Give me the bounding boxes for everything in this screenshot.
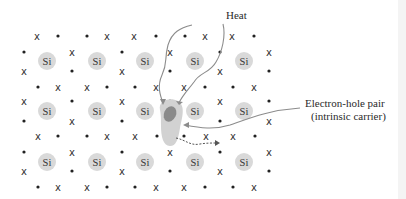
- electron-x-icon: x: [153, 182, 159, 193]
- electron-dot-icon: [85, 134, 88, 137]
- electron-x-icon: x: [266, 47, 272, 58]
- electron-x-icon: x: [181, 82, 187, 93]
- electron-x-icon: x: [202, 31, 208, 42]
- electron-x-icon: x: [251, 182, 257, 193]
- electron-dot-icon: [133, 85, 136, 88]
- si-atom-label: Si: [141, 56, 150, 67]
- si-atom-label: Si: [43, 157, 52, 168]
- electron-dot-icon: [105, 85, 108, 88]
- electron-x-icon: x: [69, 47, 75, 58]
- electron-dot-icon: [203, 185, 206, 188]
- si-atom-label: Si: [240, 157, 249, 168]
- electron-x-icon: x: [230, 131, 236, 142]
- electron-x-icon: x: [167, 47, 173, 58]
- electron-dot-icon: [183, 34, 186, 37]
- electron-x-icon: x: [119, 166, 125, 177]
- electron-dot-icon: [252, 34, 255, 37]
- electron-x-icon: x: [119, 66, 125, 77]
- si-atom-label: Si: [93, 56, 102, 67]
- electron-dot-icon: [120, 150, 123, 153]
- si-atom-label: Si: [240, 56, 249, 67]
- electron-dot-icon: [22, 150, 25, 153]
- electron-dot-icon: [253, 134, 256, 137]
- electron-x-icon: x: [229, 31, 235, 42]
- electron-dot-icon: [155, 134, 158, 137]
- electron-x-icon: x: [55, 82, 61, 93]
- lattice-diagram: SiSiSiSiSiSiSiSiSiSiSiSiSiSiSi xxxxxxxxx…: [0, 0, 406, 199]
- electron-x-icon: x: [217, 66, 223, 77]
- electron-x-icon: x: [251, 82, 257, 93]
- electron-x-icon: x: [84, 82, 90, 93]
- electron-x-icon: x: [217, 96, 223, 107]
- electron-dot-icon: [133, 185, 136, 188]
- hole-region: [160, 99, 183, 146]
- pair-label-line1: Electron-hole pair: [305, 97, 385, 109]
- electron-x-icon: x: [167, 147, 173, 158]
- electron-x-icon: x: [34, 31, 40, 42]
- electron-dot-icon: [182, 134, 185, 137]
- electron-dot-icon: [218, 119, 221, 122]
- si-atom-label: Si: [93, 157, 102, 168]
- page-edge: [398, 0, 406, 199]
- electron-x-icon: x: [35, 131, 41, 142]
- electron-hole-pair: [160, 99, 183, 146]
- electron-dot-icon: [203, 85, 206, 88]
- electron-x-icon: x: [69, 116, 75, 127]
- electron-x-icon: x: [84, 182, 90, 193]
- electron-dot-icon: [56, 134, 59, 137]
- electron-dot-icon: [168, 69, 171, 72]
- drift-arrowhead-icon: [215, 140, 220, 146]
- pointer-arrowhead-icon: [183, 122, 189, 128]
- electron-x-icon: x: [132, 131, 138, 142]
- electron-x-icon: x: [69, 147, 75, 158]
- electron-x-icon: x: [119, 96, 125, 107]
- electron-x-icon: x: [104, 31, 110, 42]
- electron-drift-path: [176, 138, 220, 146]
- electron-dot-icon: [22, 119, 25, 122]
- electron-x-icon: x: [266, 147, 272, 158]
- electron-dot-icon: [267, 99, 270, 102]
- si-atom-label: Si: [43, 106, 52, 117]
- electron-dot-icon: [70, 69, 73, 72]
- si-atom-label: Si: [141, 157, 150, 168]
- electron-dot-icon: [267, 69, 270, 72]
- electron-dot-icon: [267, 169, 270, 172]
- si-atom-label: Si: [93, 106, 102, 117]
- electron-dot-icon: [218, 150, 221, 153]
- electron-dot-icon: [168, 169, 171, 172]
- electron-dot-icon: [120, 119, 123, 122]
- electron-dot-icon: [154, 34, 157, 37]
- electron-dot-icon: [70, 169, 73, 172]
- electron-x-icon: x: [203, 131, 209, 142]
- electron-dot-icon: [70, 99, 73, 102]
- electron-x-icon: x: [21, 166, 27, 177]
- electron-x-icon: x: [181, 182, 187, 193]
- si-atom-label: Si: [191, 56, 200, 67]
- electron-x-icon: x: [217, 166, 223, 177]
- electron-x-icon: x: [55, 182, 61, 193]
- electron-dot-icon: [36, 85, 39, 88]
- heat-label: Heat: [226, 9, 247, 21]
- si-atom-label: Si: [240, 106, 249, 117]
- si-atom-label: Si: [43, 56, 52, 67]
- electron-x-icon: x: [21, 96, 27, 107]
- electron-x-icon: x: [131, 31, 137, 42]
- si-atom-label: Si: [191, 106, 200, 117]
- electron-x-icon: x: [266, 116, 272, 127]
- si-atom-label: Si: [141, 106, 150, 117]
- electron-dot-icon: [85, 34, 88, 37]
- electron-dot-icon: [36, 185, 39, 188]
- electron-dot-icon: [105, 185, 108, 188]
- electron-dot-icon: [22, 50, 25, 53]
- electron-x-icon: x: [153, 82, 159, 93]
- si-atom-label: Si: [191, 157, 200, 168]
- pair-label-line2: (intrinsic carrier): [311, 110, 386, 123]
- electron-dot-icon: [120, 50, 123, 53]
- electron-dot-icon: [56, 34, 59, 37]
- electron-dot-icon: [231, 185, 234, 188]
- electron-x-icon: x: [21, 66, 27, 77]
- electron-dot-icon: [231, 85, 234, 88]
- electron-x-icon: x: [104, 131, 110, 142]
